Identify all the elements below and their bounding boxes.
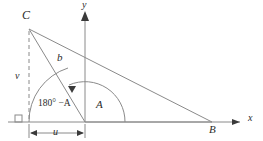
dim-arrow-right [77, 130, 84, 136]
segment-label-b: b [57, 51, 63, 63]
angle-label-exterior: 180° −A [38, 98, 71, 108]
segment-label-v: v [15, 70, 19, 81]
right-angle-square [15, 115, 22, 122]
dim-arrow-left [30, 130, 37, 136]
axis-label-x: x [248, 112, 252, 123]
exterior-angle-arc [29, 68, 68, 122]
arc-arrowhead [68, 86, 76, 93]
x-axis-arrowhead [232, 119, 240, 125]
y-axis-arrowhead [81, 11, 89, 21]
axis-label-y: y [82, 0, 86, 10]
angle-label-interior: A [96, 98, 103, 110]
vertex-label-c: C [22, 8, 30, 23]
dimension-label-u: u [53, 126, 58, 137]
vertex-label-b: B [209, 123, 216, 135]
geometry-figure [0, 0, 263, 141]
